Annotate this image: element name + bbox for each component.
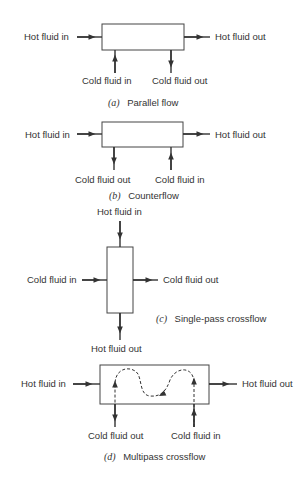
exchanger-body: [102, 24, 184, 50]
label-hot-fluid-in: Hot fluid in: [24, 31, 69, 42]
caption-parallel-flow: (a) Parallel flow: [108, 92, 178, 109]
caption-counterflow: (b) Counterflow: [109, 185, 179, 202]
label-hot-fluid-out: Hot fluid out: [215, 129, 266, 140]
panel-parallel-flow: Hot fluid in Hot fluid out Cold fluid in…: [24, 24, 266, 109]
label-cold-fluid-in: Cold fluid in: [155, 174, 205, 185]
label-hot-fluid-in: Hot fluid in: [97, 206, 142, 217]
label-hot-fluid-out: Hot fluid out: [215, 31, 266, 42]
exchanger-body: [102, 122, 183, 147]
exchanger-body: [107, 247, 133, 313]
label-hot-fluid-in: Hot fluid in: [25, 129, 70, 140]
label-hot-fluid-out: Hot fluid out: [242, 378, 293, 389]
label-cold-fluid-out: Cold fluid out: [163, 274, 219, 285]
exchanger-body: [100, 365, 209, 404]
label-cold-fluid-in: Cold fluid in: [171, 430, 221, 441]
caption-multipass-crossflow: (d) Multipass crossflow: [104, 446, 206, 463]
label-cold-fluid-in: Cold fluid in: [82, 75, 132, 86]
heat-exchanger-flow-diagram: Hot fluid in Hot fluid out Cold fluid in…: [0, 0, 306, 481]
panel-single-pass-crossflow: Hot fluid in Cold fluid in Cold fluid ou…: [27, 206, 267, 354]
label-cold-fluid-out: Cold fluid out: [88, 430, 144, 441]
label-cold-fluid-in: Cold fluid in: [27, 274, 77, 285]
label-hot-fluid-in: Hot fluid in: [21, 378, 66, 389]
panel-multipass-crossflow: Hot fluid in Hot fluid out Cold fluid ou…: [21, 365, 293, 463]
label-cold-fluid-out: Cold fluid out: [75, 174, 131, 185]
panel-counterflow: Hot fluid in Hot fluid out Cold fluid ou…: [25, 122, 266, 202]
label-cold-fluid-out: Cold fluid out: [152, 75, 208, 86]
caption-single-pass-crossflow: (c) Single-pass crossflow: [156, 308, 267, 325]
label-hot-fluid-out: Hot fluid out: [91, 343, 142, 354]
